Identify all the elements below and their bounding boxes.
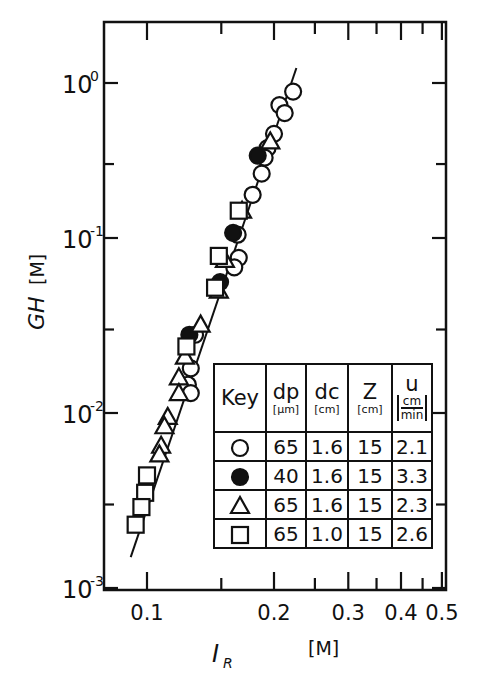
legend-row: 651.6152.1 xyxy=(214,432,432,461)
triangle-icon xyxy=(228,493,252,517)
x-axis-label-subscript: R xyxy=(223,655,233,671)
y-axis-label: GH xyxy=(24,296,49,330)
legend-u-value: 3.3 xyxy=(392,461,432,490)
legend-key-cell xyxy=(214,432,266,461)
legend-key-cell xyxy=(214,490,266,519)
y-tick-label: 10 xyxy=(62,226,93,254)
data-point-open-circle xyxy=(254,166,270,182)
data-point-filled-circle xyxy=(250,148,266,164)
legend-z-value: 15 xyxy=(348,490,392,519)
open-circle-icon xyxy=(228,435,252,459)
legend-header-row: Key dp [μm] dc [cm] Z [cm] u cm min xyxy=(214,364,432,432)
x-tick-label: 0.1 xyxy=(130,601,163,625)
square-icon xyxy=(228,522,252,546)
y-tick-exponent: 0 xyxy=(90,68,99,84)
legend-header-key: Key xyxy=(214,364,266,432)
data-point-square xyxy=(133,499,149,515)
x-axis-label: I xyxy=(212,640,219,668)
x-tick-label: 0.3 xyxy=(332,601,365,625)
data-point-filled-circle xyxy=(225,225,241,241)
triangle-marker xyxy=(231,497,249,513)
chart-plot: 10010-110-210-3 0.10.20.30.40.5 GH [M] I… xyxy=(0,0,490,680)
y-tick-label: 10 xyxy=(62,71,93,99)
filled-circle-icon xyxy=(228,464,252,488)
legend-row: 401.6153.3 xyxy=(214,461,432,490)
legend-table: Key dp [μm] dc [cm] Z [cm] u cm min xyxy=(213,363,433,549)
open-circle-marker xyxy=(232,440,248,456)
legend-dp-value: 40 xyxy=(266,461,306,490)
legend-z-value: 15 xyxy=(348,519,392,548)
data-point-square xyxy=(128,517,144,533)
data-point-square xyxy=(139,467,155,483)
data-point-open-circle xyxy=(277,105,293,121)
legend-key-cell xyxy=(214,519,266,548)
legend-dc-value: 1.6 xyxy=(306,432,348,461)
data-point-square xyxy=(178,338,194,354)
legend-row: 651.6152.3 xyxy=(214,490,432,519)
legend-dc-value: 1.6 xyxy=(306,461,348,490)
legend-dp-value: 65 xyxy=(266,432,306,461)
legend-dp-value: 65 xyxy=(266,519,306,548)
legend-u-value: 2.3 xyxy=(392,490,432,519)
data-point-open-circle xyxy=(245,187,261,203)
legend-dc-value: 1.6 xyxy=(306,490,348,519)
legend-header-z: Z [cm] xyxy=(348,364,392,432)
y-tick-exponent: -3 xyxy=(90,573,104,589)
legend-dp-value: 65 xyxy=(266,490,306,519)
square-marker xyxy=(232,527,248,543)
data-point-square xyxy=(211,248,227,264)
data-point-open-circle xyxy=(285,84,301,100)
y-tick-label: 10 xyxy=(62,576,93,604)
legend-u-value: 2.6 xyxy=(392,519,432,548)
filled-circle-marker xyxy=(232,469,248,485)
series-filled-circle xyxy=(181,148,265,343)
x-axis-unit: [M] xyxy=(308,637,339,659)
x-tick-label: 0.2 xyxy=(257,601,290,625)
legend-key-cell xyxy=(214,461,266,490)
legend-header-dp: dp [μm] xyxy=(266,364,306,432)
series-open-circle xyxy=(180,84,301,401)
y-axis-unit: [M] xyxy=(26,254,48,285)
data-point-triangle xyxy=(192,316,210,332)
legend-dc-value: 1.0 xyxy=(306,519,348,548)
y-tick-exponent: -2 xyxy=(90,398,104,414)
x-tick-label: 0.5 xyxy=(425,601,458,625)
x-tick-label: 0.4 xyxy=(384,601,417,625)
legend-header-u: u cm min xyxy=(392,364,432,432)
legend-z-value: 15 xyxy=(348,461,392,490)
legend-z-value: 15 xyxy=(348,432,392,461)
legend-row: 651.0152.6 xyxy=(214,519,432,548)
data-point-square xyxy=(207,280,223,296)
legend-u-value: 2.1 xyxy=(392,432,432,461)
y-tick-exponent: -1 xyxy=(90,223,104,239)
u-unit-fraction: cm min xyxy=(397,395,428,421)
y-tick-label: 10 xyxy=(62,401,93,429)
legend-header-dc: dc [cm] xyxy=(306,364,348,432)
data-point-square xyxy=(231,203,247,219)
